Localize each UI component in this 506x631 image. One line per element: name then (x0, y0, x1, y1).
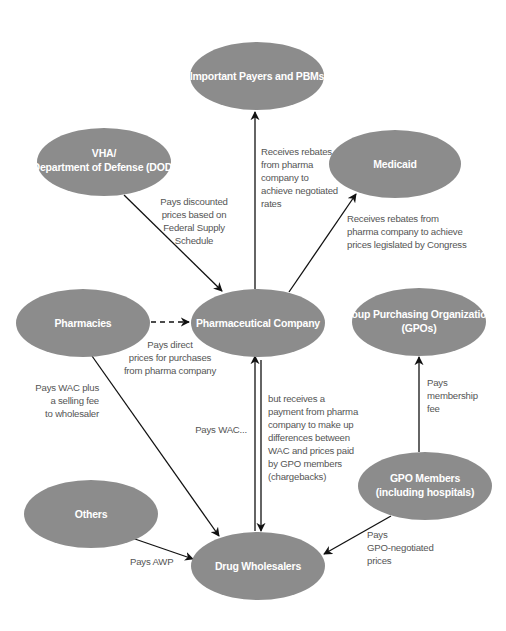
svg-text:WAC and prices paid: WAC and prices paid (268, 445, 354, 456)
svg-text:Group Purchasing Organizations: Group Purchasing Organizations (340, 308, 499, 320)
svg-text:GPO Members: GPO Members (390, 472, 461, 484)
svg-text:pharma company to achieve: pharma company to achieve (347, 226, 463, 237)
node-label: Others (75, 508, 108, 520)
edge-label-pharma-to-payers: Receives rebates from pharma company to … (261, 146, 338, 209)
svg-text:prices for purchases: prices for purchases (129, 352, 212, 363)
node-label: Medicaid (373, 158, 416, 170)
svg-text:Federal Supply: Federal Supply (163, 222, 225, 233)
svg-text:Pharmaceutical Company: Pharmaceutical Company (196, 317, 320, 329)
svg-text:GPO-negotiated: GPO-negotiated (367, 542, 434, 553)
svg-text:(including hospitals): (including hospitals) (376, 486, 474, 498)
svg-text:a selling fee: a selling fee (50, 395, 99, 406)
node-label: VHA/ (92, 147, 117, 159)
node-label: GPO Members (390, 472, 461, 484)
node-medicaid: Medicaid (329, 130, 461, 198)
node-pharmaceutical-company: Pharmaceutical Company (191, 289, 325, 357)
svg-text:rates: rates (261, 198, 282, 209)
node-group-purchasing-organizations: Group Purchasing Organizations (GPOs) (340, 288, 499, 356)
edge-label-pharma-to-medicaid: Receives rebates from pharma company to … (347, 213, 467, 250)
pharma-payment-flow-diagram: Important Payers and PBMs VHA/ Departmen… (0, 0, 506, 631)
svg-text:company to: company to (261, 172, 309, 183)
svg-text:Pharmacies: Pharmacies (55, 317, 112, 329)
svg-text:payment from pharma: payment from pharma (268, 406, 359, 417)
node-label: Pharmacies (55, 317, 112, 329)
edge-label-members-to-gpos: Pays membership fee (427, 377, 478, 414)
svg-text:Others: Others (75, 508, 108, 520)
svg-text:differences between: differences between (268, 432, 350, 443)
node-vha-dod: VHA/ Department of Defense (DOD) (33, 128, 176, 196)
edge-label-wholesalers-to-pharma: Pays WAC... (195, 424, 247, 435)
svg-text:to wholesaler: to wholesaler (45, 408, 100, 419)
svg-text:membership: membership (427, 390, 478, 401)
svg-text:Pays: Pays (427, 377, 448, 388)
node-label: Department of Defense (DOD) (33, 161, 176, 173)
node-label: Important Payers and PBMs (190, 70, 325, 82)
svg-text:Medicaid: Medicaid (373, 158, 416, 170)
node-drug-wholesalers: Drug Wholesalers (191, 532, 325, 600)
node-important-payers-pbms: Important Payers and PBMs (190, 42, 325, 110)
node-label: Drug Wholesalers (215, 560, 301, 572)
node-gpo-members: GPO Members (including hospitals) (358, 452, 492, 520)
svg-text:prices legislated by Congress: prices legislated by Congress (347, 239, 467, 250)
edge-label-pharmacies-to-wholesalers: Pays WAC plus a selling fee to wholesale… (35, 382, 100, 419)
svg-text:prices based on: prices based on (162, 209, 227, 220)
node-pharmacies: Pharmacies (16, 289, 150, 357)
edge-label-members-to-wholesalers: Pays GPO-negotiated prices (367, 529, 434, 566)
edge-label-vha-to-pharma: Pays discounted prices based on Federal … (160, 196, 227, 246)
svg-text:Pays direct: Pays direct (147, 339, 193, 350)
svg-text:VHA/: VHA/ (92, 147, 117, 159)
node-label: (GPOs) (402, 322, 437, 334)
svg-text:Department of Defense (DOD): Department of Defense (DOD) (33, 161, 176, 173)
svg-text:(chargebacks): (chargebacks) (268, 471, 326, 482)
svg-text:Pays AWP: Pays AWP (130, 556, 173, 567)
svg-text:from pharma: from pharma (261, 159, 314, 170)
svg-text:but receives a: but receives a (268, 393, 326, 404)
svg-text:Receives rebates from: Receives rebates from (347, 213, 439, 224)
svg-text:Drug Wholesalers: Drug Wholesalers (215, 560, 301, 572)
svg-text:(GPOs): (GPOs) (402, 322, 437, 334)
svg-text:Pays: Pays (367, 529, 388, 540)
node-label: Group Purchasing Organizations (340, 308, 499, 320)
edge-label-pharma-to-wholesalers: but receives a payment from pharma compa… (268, 393, 359, 482)
edge-label-others-to-wholesalers: Pays AWP (130, 556, 173, 567)
svg-text:Pays WAC plus: Pays WAC plus (35, 382, 99, 393)
svg-text:Pays discounted: Pays discounted (160, 196, 227, 207)
svg-text:prices: prices (367, 555, 392, 566)
svg-text:fee: fee (427, 403, 440, 414)
svg-text:company to make up: company to make up (268, 419, 353, 430)
edge-pharma-to-medicaid (289, 194, 356, 292)
svg-text:Receives rebates: Receives rebates (261, 146, 332, 157)
svg-text:Important Payers and PBMs: Important Payers and PBMs (190, 70, 325, 82)
svg-text:Pays WAC...: Pays WAC... (195, 424, 247, 435)
node-others: Others (24, 480, 158, 548)
node-label: (including hospitals) (376, 486, 474, 498)
node-label: Pharmaceutical Company (196, 317, 320, 329)
edge-label-pharmacies-to-pharma: Pays direct prices for purchases from ph… (124, 339, 217, 376)
svg-text:by GPO members: by GPO members (268, 458, 342, 469)
svg-text:achieve negotiated: achieve negotiated (261, 185, 338, 196)
svg-text:from pharma company: from pharma company (124, 365, 217, 376)
svg-text:Schedule: Schedule (175, 235, 213, 246)
